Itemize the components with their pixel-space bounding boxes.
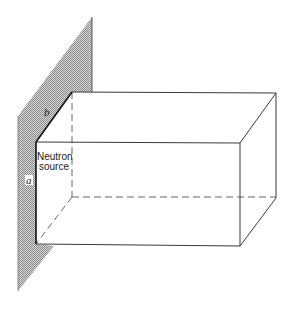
neutron-source-label: Neutron source [37, 152, 71, 172]
dimension-b-label: b [43, 107, 51, 117]
dimension-a-label: a [25, 175, 33, 185]
neutron-source-label-line2: source [37, 162, 71, 172]
